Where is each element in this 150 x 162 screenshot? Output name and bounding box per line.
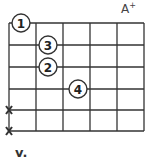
chord-name: A+ bbox=[121, 1, 136, 16]
svg-text:3: 3 bbox=[44, 39, 52, 53]
finger-marker-4: 4 bbox=[69, 80, 87, 98]
svg-text:4: 4 bbox=[74, 83, 82, 97]
fret-grid bbox=[9, 23, 144, 131]
finger-marker-1: 1 bbox=[12, 14, 30, 32]
svg-text:2: 2 bbox=[44, 61, 52, 75]
chord-quality: + bbox=[129, 1, 136, 10]
finger-marker-3: 3 bbox=[39, 36, 57, 54]
chord-root: A bbox=[121, 2, 129, 16]
fret-position-label: v. bbox=[15, 145, 27, 160]
svg-text:1: 1 bbox=[17, 17, 25, 31]
chord-diagram: 1 3 2 4 bbox=[0, 0, 150, 162]
finger-marker-2: 2 bbox=[39, 58, 57, 76]
